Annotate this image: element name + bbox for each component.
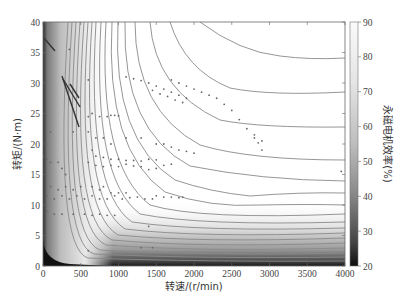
plot-area	[42, 22, 345, 266]
data-point	[170, 91, 172, 93]
y-tick-label: 25	[31, 109, 41, 119]
colorbar-ticks: 2030405060708090	[358, 18, 373, 272]
data-point	[87, 131, 89, 133]
data-point	[155, 159, 157, 161]
data-point	[95, 164, 97, 166]
data-point	[148, 169, 150, 171]
data-point	[140, 166, 142, 168]
data-point	[174, 99, 176, 101]
data-point	[87, 250, 89, 252]
x-tick-label: 2000	[185, 269, 204, 279]
data-point	[186, 85, 188, 87]
data-point	[87, 79, 89, 81]
data-point	[148, 158, 150, 160]
data-point	[170, 146, 172, 148]
data-point	[110, 158, 112, 160]
data-point	[182, 102, 184, 104]
x-tick-label: 1000	[109, 269, 128, 279]
data-point	[125, 137, 127, 139]
data-point	[163, 164, 165, 166]
data-point	[69, 49, 71, 51]
data-point	[72, 131, 74, 133]
data-point	[133, 78, 135, 80]
data-point	[261, 149, 263, 151]
data-point	[178, 149, 180, 151]
data-point	[208, 94, 210, 96]
x-tick-label: 4000	[336, 269, 355, 279]
data-point	[61, 168, 63, 170]
data-point	[87, 116, 89, 118]
data-point	[103, 186, 105, 188]
data-point	[46, 158, 48, 160]
data-point	[140, 80, 142, 82]
data-point	[110, 143, 112, 145]
data-point	[178, 82, 180, 84]
data-point	[140, 160, 142, 162]
data-point	[121, 198, 123, 200]
data-point	[99, 198, 101, 200]
colorbar-tick-label: 90	[363, 18, 373, 28]
data-point	[152, 247, 154, 249]
data-point	[95, 137, 97, 139]
data-point	[155, 143, 157, 145]
x-axis-label: 转速/(r/min)	[165, 280, 223, 292]
data-point	[140, 137, 142, 139]
data-point	[99, 213, 101, 215]
data-point	[193, 152, 195, 154]
data-point	[163, 143, 165, 145]
data-point	[76, 195, 78, 197]
data-point	[95, 155, 97, 157]
data-point	[91, 195, 93, 197]
data-point	[103, 157, 105, 159]
data-point	[103, 166, 105, 168]
y-tick-label: 15	[31, 170, 41, 180]
data-point	[57, 189, 59, 191]
data-point	[106, 214, 108, 216]
colorbar-tick-label: 30	[363, 227, 373, 237]
data-point	[118, 115, 120, 117]
data-point	[110, 114, 112, 116]
data-point	[50, 186, 52, 188]
data-point	[69, 198, 71, 200]
data-point	[167, 96, 169, 98]
data-point	[103, 137, 105, 139]
data-point	[118, 158, 120, 160]
data-point	[118, 192, 120, 194]
x-tick-label: 3500	[298, 269, 317, 279]
data-point	[80, 186, 82, 188]
data-point	[110, 192, 112, 194]
data-point	[216, 97, 218, 99]
efficiency-contour-chart: 05001000150020002500300035004000 0510152…	[0, 0, 403, 304]
data-point	[72, 213, 74, 215]
data-point	[170, 196, 172, 198]
x-tick-label: 500	[74, 269, 89, 279]
y-tick-label: 5	[35, 231, 40, 241]
data-point	[223, 103, 225, 105]
data-point	[118, 166, 120, 168]
data-point	[125, 192, 127, 194]
data-point	[133, 165, 135, 167]
colorbar-tick-label: 40	[363, 192, 373, 202]
x-tick-label: 3000	[260, 269, 279, 279]
data-point	[257, 142, 259, 144]
data-point	[155, 85, 157, 87]
y-tick-label: 30	[31, 79, 41, 89]
colorbar-label: 永磁电机效率(%)	[382, 105, 394, 182]
data-point	[50, 131, 52, 133]
data-point	[148, 225, 150, 227]
x-tick-label: 0	[41, 269, 46, 279]
data-point	[91, 214, 93, 216]
data-point	[246, 128, 248, 130]
data-point	[238, 119, 240, 121]
data-point	[53, 198, 55, 200]
data-point	[193, 88, 195, 90]
data-point	[178, 94, 180, 96]
data-point	[178, 197, 180, 199]
data-point	[84, 213, 86, 215]
data-point	[231, 110, 233, 112]
y-tick-label: 20	[31, 140, 41, 150]
data-point	[125, 163, 127, 165]
data-point	[170, 163, 172, 165]
data-point	[61, 213, 63, 215]
colorbar-tick-label: 80	[363, 52, 373, 62]
